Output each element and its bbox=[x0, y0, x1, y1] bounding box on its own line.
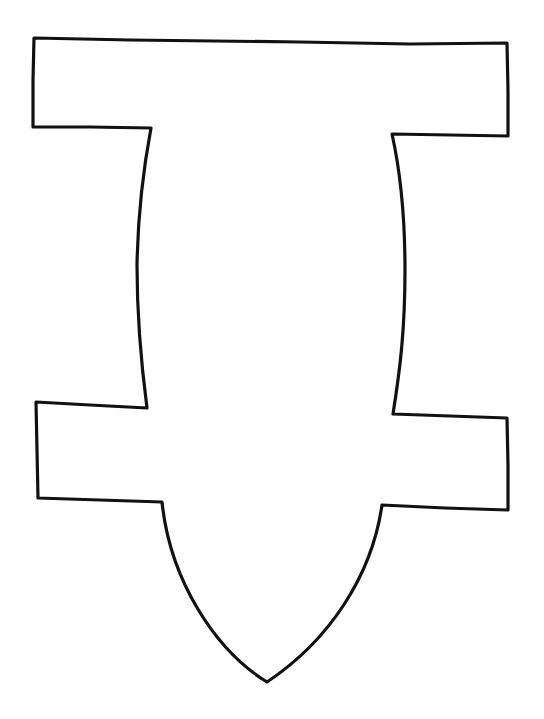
shape-outline bbox=[33, 38, 508, 682]
outline-shape bbox=[0, 0, 544, 719]
drawing-canvas bbox=[0, 0, 544, 719]
